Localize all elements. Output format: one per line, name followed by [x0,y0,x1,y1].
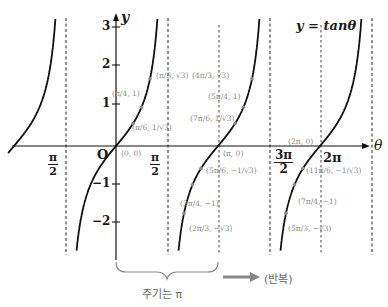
point-label-2pi: (2π, 0) [288,138,313,146]
point-label-pi: (π, 0) [223,150,243,158]
y-tick-neg2: −2 [92,214,110,228]
point-label-5pi6: (5π/6, −1/√3) [206,167,257,175]
point-label-3pi4: (3π/4, −1) [180,200,219,208]
x-tick-2pi: 2π [323,150,342,165]
x-axis-label: θ [374,137,382,153]
y-tick-1: 1 [102,96,110,110]
equation-label: y = tanθ [296,18,356,33]
point-marker [182,211,186,215]
tan-curves [8,19,361,251]
point-marker [140,105,144,109]
point-label-7pi6: (7π/6, 1/√3) [190,115,234,123]
point-label-5pi3: (5π/3, −√3) [288,225,331,233]
y-tick-2: 2 [102,57,110,71]
x-tick-pi-half: π 2 [150,152,160,177]
y-tick-neg1: −1 [92,176,110,190]
point-marker [250,77,254,81]
origin-label: O [97,147,108,162]
tan-branch [77,19,158,251]
point-marker [301,167,305,171]
point-marker [199,167,203,171]
point-marker [293,183,297,187]
point-label-11pi6: (11π/6, −1/√3) [306,167,362,175]
point-label-5pi4: (5π/4, 1) [208,93,240,101]
y-axis-label: y [121,9,129,25]
y-axis-arrow-icon [113,13,119,21]
point-marker [284,211,288,215]
point-label-2pi3: (2π/3, −√3) [189,225,232,233]
point-label-7pi4: (7π/4, −1) [298,198,337,206]
point-label-pi3: (π/3, √3) [156,72,188,80]
x-tick-3pi-half: 3π 2 [274,150,293,175]
period-caption: 주기는 π [142,285,182,301]
tan-branch [8,19,55,153]
point-marker [148,77,152,81]
y-tick-3: 3 [102,19,110,33]
x-axis-arrow-icon [362,143,370,149]
repeat-caption: (반복) [264,270,293,286]
x-tick-neg-pi-half: π 2 [48,152,58,177]
point-marker [191,183,195,187]
point-label-0: (0, 0) [121,150,141,158]
point-label-pi4: (π/4, 1) [112,90,140,98]
point-label-pi6: (π/6, 1/√3) [132,124,172,132]
point-label-4pi3: (4π/3, √3) [192,72,229,80]
repeat-arrow-head-icon [250,272,260,282]
point-marker [242,105,246,109]
period-brace [116,262,218,279]
